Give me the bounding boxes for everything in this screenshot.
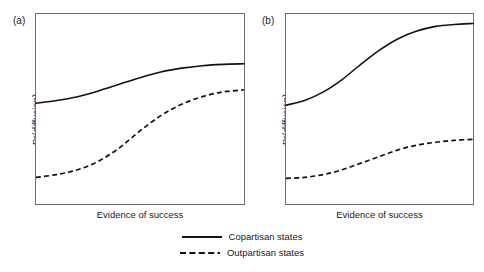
figure-two-panel-diffusion-chart: (a) Pr(diffusion) Evidence of success (b… [0, 0, 484, 272]
legend-label-outpartisan: Outpartisan states [227, 247, 304, 259]
panel-b-label: (b) [262, 15, 274, 27]
panel-b-outpartisan-curve [286, 139, 473, 178]
legend-solid-line-icon [182, 232, 222, 242]
panel-b-curves [286, 14, 473, 204]
panel-a-label: (a) [13, 15, 25, 27]
panel-b-plot-area [285, 13, 474, 205]
panel-a-x-axis-label: Evidence of success [35, 209, 245, 221]
legend-item-outpartisan: Outpartisan states [180, 246, 304, 260]
panel-a-curves [36, 14, 244, 204]
chart-legend: Copartisan states Outpartisan states [0, 230, 484, 260]
panel-a-plot-area [35, 13, 245, 205]
panel-b-copartisan-curve [286, 24, 473, 106]
panel-b-x-axis-label: Evidence of success [285, 209, 474, 221]
legend-item-copartisan: Copartisan states [182, 230, 303, 244]
panel-a-outpartisan-curve [36, 90, 244, 177]
legend-label-copartisan: Copartisan states [229, 231, 303, 243]
legend-dashed-line-icon [180, 248, 220, 258]
panel-a-copartisan-curve [36, 64, 244, 104]
